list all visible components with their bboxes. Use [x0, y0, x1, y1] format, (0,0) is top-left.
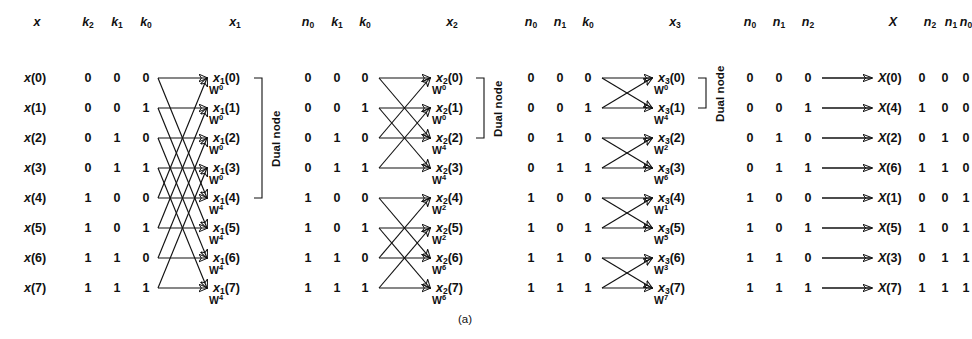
output-node-label-2: X(2): [878, 131, 902, 145]
output-bit-r1-c1: 0: [942, 101, 949, 115]
stage2-twiddle-4: W2: [432, 203, 446, 216]
input-bit-r2-c0: 0: [85, 131, 92, 145]
stage3-bit-r1-c2: 1: [585, 101, 592, 115]
stage3-bit-r5-c0: 1: [528, 221, 535, 235]
input-bit-r7-c0: 1: [85, 281, 92, 295]
column-header-n0: n0: [744, 15, 756, 30]
stage2-bit-r0-c2: 0: [362, 71, 369, 85]
output-bit-r4-c1: 0: [942, 191, 949, 205]
stage3-bit-r0-c0: 0: [528, 71, 535, 85]
column-header-k0: k0: [140, 15, 152, 30]
stage4-bit-r6-c1: 1: [776, 251, 783, 265]
output-bit-r3-c2: 0: [963, 161, 970, 175]
stage3-bit-r0-c1: 0: [557, 71, 564, 85]
stage4-bit-r1-c2: 1: [805, 101, 812, 115]
column-header-x2: x2: [446, 15, 458, 30]
stage3-twiddle-1: W4: [654, 113, 668, 126]
output-node-label-3: X(6): [878, 161, 902, 175]
stage3-bit-r4-c0: 1: [528, 191, 535, 205]
column-header-k1: k1: [111, 15, 123, 30]
stage2-bit-r6-c0: 1: [305, 251, 312, 265]
stage3-bit-r4-c2: 0: [585, 191, 592, 205]
stage3-twiddle-4: W1: [654, 203, 668, 216]
stage2-twiddle-6: W6: [432, 263, 446, 276]
stage3-bit-r7-c1: 1: [557, 281, 564, 295]
stage4-bit-r2-c1: 1: [776, 131, 783, 145]
input-bit-r3-c1: 1: [114, 161, 121, 175]
input-bit-r6-c0: 1: [85, 251, 92, 265]
dual-node-bracket-3: [698, 78, 706, 108]
output-bit-r7-c1: 1: [942, 281, 949, 295]
output-bit-r7-c0: 1: [919, 281, 926, 295]
column-header-n1: n1: [554, 15, 566, 30]
stage2-bit-r3-c2: 1: [362, 161, 369, 175]
stage4-bit-r6-c0: 1: [747, 251, 754, 265]
input-bit-r2-c1: 1: [114, 131, 121, 145]
output-bit-r6-c0: 0: [919, 251, 926, 265]
stage2-bit-r4-c1: 0: [334, 191, 341, 205]
output-bit-r3-c1: 1: [942, 161, 949, 175]
stage2-bit-r2-c1: 1: [334, 131, 341, 145]
stage3-bit-r3-c1: 1: [557, 161, 564, 175]
stage2-bit-r2-c0: 0: [305, 131, 312, 145]
stage3-bit-r6-c1: 1: [557, 251, 564, 265]
column-header-k2: k2: [82, 15, 94, 30]
stage3-bit-r6-c2: 0: [585, 251, 592, 265]
output-node-label-4: X(1): [878, 191, 902, 205]
stage3-twiddle-3: W6: [654, 173, 668, 186]
stage2-bit-r1-c0: 0: [305, 101, 312, 115]
stage3-bit-r2-c2: 0: [585, 131, 592, 145]
stage4-bit-r3-c1: 1: [776, 161, 783, 175]
stage2-bit-r1-c2: 1: [362, 101, 369, 115]
column-header-k0: k0: [582, 15, 594, 30]
stage3-twiddle-6: W3: [654, 263, 668, 276]
stage4-bit-r0-c2: 0: [805, 71, 812, 85]
column-header-n2: n2: [924, 15, 936, 30]
stage3-bit-r2-c1: 1: [557, 131, 564, 145]
stage2-twiddle-5: W2: [432, 233, 446, 246]
column-header-n1: n1: [773, 15, 785, 30]
stage1-twiddle-2: W0: [209, 143, 223, 156]
output-node-label-5: X(5): [878, 221, 902, 235]
input-node-label-4: x(4): [24, 191, 46, 205]
stage2-twiddle-3: W4: [432, 173, 446, 186]
stage1-twiddle-5: W4: [209, 233, 223, 246]
stage2-twiddle-2: W4: [432, 143, 446, 156]
input-node-label-0: x(0): [24, 71, 46, 85]
output-bit-r0-c0: 0: [919, 71, 926, 85]
stage1-twiddle-3: W0: [209, 173, 223, 186]
stage2-twiddle-7: W6: [432, 293, 446, 306]
stage2-bit-r7-c1: 1: [334, 281, 341, 295]
output-bit-r7-c2: 1: [963, 281, 970, 295]
output-node-label-1: X(4): [878, 101, 902, 115]
input-bit-r6-c1: 1: [114, 251, 121, 265]
input-bit-r1-c2: 1: [143, 101, 150, 115]
stage3-bit-r3-c2: 1: [585, 161, 592, 175]
column-header-x3: x3: [669, 15, 681, 30]
stage4-bit-r1-c1: 0: [776, 101, 783, 115]
stage3-bit-r6-c0: 1: [528, 251, 535, 265]
figure-caption: (a): [458, 313, 472, 325]
stage3-bit-r3-c0: 0: [528, 161, 535, 175]
output-bit-r4-c0: 0: [919, 191, 926, 205]
column-header-n2: n2: [802, 15, 814, 30]
stage3-bit-r5-c1: 0: [557, 221, 564, 235]
dual-node-bracket-2: [476, 78, 484, 138]
stage3-twiddle-5: W5: [654, 233, 668, 246]
stage2-bit-r4-c0: 1: [305, 191, 312, 205]
output-bit-r1-c0: 1: [919, 101, 926, 115]
column-header-n0: n0: [302, 15, 314, 30]
input-bit-r4-c1: 0: [114, 191, 121, 205]
input-node-label-3: x(3): [24, 161, 46, 175]
stage3-bit-r7-c0: 1: [528, 281, 535, 295]
stage2-bit-r3-c0: 0: [305, 161, 312, 175]
stage2-bit-r6-c1: 1: [334, 251, 341, 265]
output-node-label-0: X(0): [878, 71, 902, 85]
stage1-twiddle-7: W4: [209, 293, 223, 306]
stage3-twiddle-0: W0: [654, 83, 668, 96]
input-bit-r2-c2: 0: [143, 131, 150, 145]
stage4-bit-r5-c1: 0: [776, 221, 783, 235]
input-bit-r4-c2: 0: [143, 191, 150, 205]
column-header-n0: n0: [525, 15, 537, 30]
